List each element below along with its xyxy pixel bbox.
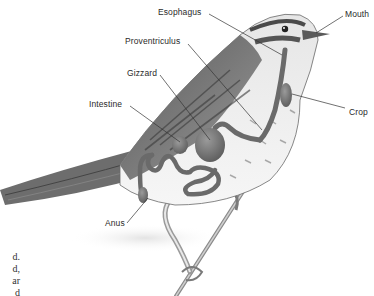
bird-eye: [282, 26, 288, 32]
gizzard-organ: [195, 128, 225, 162]
text-fragment: d,: [0, 263, 20, 275]
label-intestine: Intestine: [89, 99, 122, 109]
ground-shadow: [70, 224, 220, 252]
label-esophagus: Esophagus: [158, 7, 201, 17]
intestine-organ: [172, 136, 188, 154]
bird-illustration: [0, 0, 374, 296]
label-gizzard: Gizzard: [127, 68, 157, 78]
label-crop: Crop: [349, 107, 368, 117]
crop-organ: [280, 83, 292, 107]
bird-digestive-diagram: Esophagus Mouth Proventriculus Gizzard I…: [0, 0, 374, 296]
background-text-fragments: d. d, ar d: [0, 251, 20, 296]
text-fragment: d.: [0, 251, 20, 263]
text-fragment: ar: [0, 275, 20, 287]
label-proventriculus: Proventriculus: [125, 36, 180, 46]
label-mouth: Mouth: [345, 9, 369, 19]
text-fragment: d: [0, 287, 20, 296]
label-anus: Anus: [105, 218, 125, 228]
